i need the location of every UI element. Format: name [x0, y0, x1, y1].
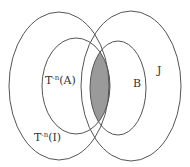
label-outer-right: J [157, 65, 161, 76]
venn-svg [0, 0, 190, 167]
label-inner-right: B [133, 78, 141, 89]
venn-diagram: T-n(A) T-n(I) B J [0, 0, 190, 167]
label-inner-left: T-n(A) [45, 75, 76, 86]
label-outer-left: T-n(I) [34, 132, 61, 143]
